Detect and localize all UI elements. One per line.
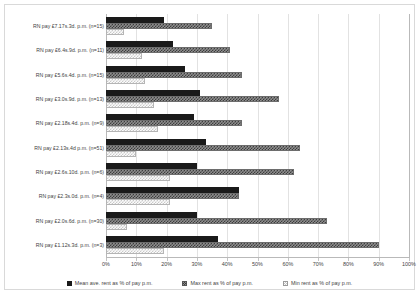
bar-min [106,126,158,132]
legend-swatch-max-icon [182,281,187,286]
y-axis-labels: RN pay £7.17s.3d. p.m. (n=15)RN pay £6.4… [5,14,104,257]
x-axis-tick-label: 100% [394,261,419,268]
x-axis-tick-label: 50% [243,261,273,268]
y-axis-label: RN pay £5.6s.4d. p.m. (n=15) [7,72,104,78]
legend-label: Mean ave. rent as % of pay p.m. [75,280,153,287]
bar-group [106,160,409,184]
bar-min [106,175,170,181]
bar-group [106,184,409,208]
x-axis-tick-label: 80% [333,261,363,268]
legend-item-max[interactable]: Max rent as % of pay p.m. [182,280,253,287]
x-axis-tick-label: 60% [273,261,303,268]
bar-max [106,218,327,224]
y-axis-label: RN pay £1.12s.3d. p.m. (n=3) [7,242,104,248]
y-axis-label: RN pay £2.0s.6d. p.m. (n=30) [7,218,104,224]
bar-min [106,151,136,157]
bar-group [106,38,409,62]
bar-group [106,208,409,232]
bar-min [106,248,164,254]
legend-swatch-min-icon [283,281,288,286]
y-axis-label: RN pay £6.4s.9d. p.m. (n=11) [7,47,104,53]
plot-area [106,14,409,257]
x-axis-tick-label: 0% [91,261,121,268]
bar-group [106,14,409,38]
bar-group [106,87,409,111]
chart-legend: Mean ave. rent as % of pay p.m.Max rent … [5,277,414,289]
bar-min [106,53,142,59]
bar-min [106,78,145,84]
legend-label: Min rent as % of pay p.m. [291,280,352,287]
bar-min [106,199,170,205]
gridline-100% [409,14,410,257]
y-axis-label: RN pay £2.3s.0d. p.m. (n=4) [7,193,104,199]
bar-group [106,111,409,135]
bar-group [106,136,409,160]
bar-min [106,29,124,35]
bar-group [106,63,409,87]
x-axis-tick-label: 70% [303,261,333,268]
x-axis-tick-label: 30% [182,261,212,268]
bar-min [106,224,127,230]
legend-item-min[interactable]: Min rent as % of pay p.m. [283,280,352,287]
bar-min [106,102,154,108]
legend-swatch-mean-icon [67,281,72,286]
x-axis-tick-label: 10% [121,261,151,268]
x-axis-tick-label: 20% [152,261,182,268]
x-axis-tick-label: 90% [364,261,394,268]
y-axis-label: RN pay £2.13s.4d p.m. (n=51) [7,145,104,151]
y-axis-label: RN pay £2.18s.4d. p.m. (n=9) [7,120,104,126]
y-axis-label: RN pay £7.17s.3d. p.m. (n=15) [7,23,104,29]
bar-group [106,233,409,257]
y-axis-label: RN pay £3.0s.9d. p.m. (n=13) [7,96,104,102]
chart-container: RN pay £7.17s.3d. p.m. (n=15)RN pay £6.4… [4,4,415,290]
legend-item-mean[interactable]: Mean ave. rent as % of pay p.m. [67,280,153,287]
x-axis-tick-label: 40% [212,261,242,268]
y-axis-label: RN pay £2.6s.10d. p.m. (n=6) [7,169,104,175]
legend-label: Max rent as % of pay p.m. [190,280,253,287]
